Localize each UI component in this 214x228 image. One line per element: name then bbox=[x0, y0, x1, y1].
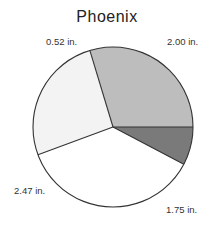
slice-label-2-47: 2.47 in. bbox=[14, 185, 45, 196]
slice-label-2-00: 2.00 in. bbox=[167, 36, 198, 47]
pie-chart: Phoenix 2.00 in. 1.75 in. 2.47 in. 0.52 … bbox=[0, 0, 214, 228]
slice-label-0-52: 0.52 in. bbox=[46, 36, 77, 47]
slice-label-1-75: 1.75 in. bbox=[166, 204, 197, 215]
